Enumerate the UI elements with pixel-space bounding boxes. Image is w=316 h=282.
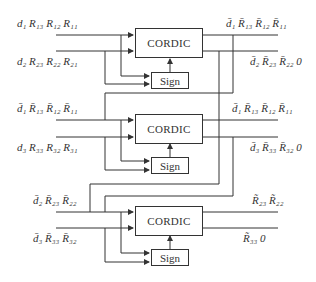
output-label-3a: R̃₂₃ R̃₂₂ [252,194,284,206]
output-label-2b: d̄₃ R̄₃₃ R̄₃₂ 0 [250,141,302,153]
output-label-3b: R̃₃₃ 0 [243,232,266,244]
input-label-1b: d₂ R₂₃ R₂₂ R₂₁ [17,55,78,67]
sign-box-3: Sign [151,249,189,266]
input-label-2a: d̄₁ R̄₁₃ R̄₁₂ R̄₁₁ [17,102,78,114]
sign-box-2: Sign [151,157,189,174]
output-label-1b: d̄₂ R̄₂₃ R̄₂₂ 0 [250,55,302,67]
input-label-1a: d₁ R₁₃ R₁₂ R₁₁ [17,17,78,29]
cordic-box-3: CORDIC [135,206,203,236]
input-label-2b: d₃ R₃₃ R₃₂ R₃₁ [17,141,78,153]
input-label-3a: d̄₂ R̄₂₃ R̄₂₂ [33,194,77,206]
output-label-2a: d̄₁ R̄₁₃ R̄₁₂ R̄₁₁ [232,102,293,114]
cordic-box-2: CORDIC [135,114,203,144]
cordic-box-1: CORDIC [135,28,203,58]
output-label-1a: d̄₁ R̄₁₃ R̄₁₂ R̄₁₁ [226,17,287,29]
sign-box-1: Sign [151,72,189,89]
input-label-3b: d̄₃ R̄₃₃ R̄₃₂ [33,232,77,244]
